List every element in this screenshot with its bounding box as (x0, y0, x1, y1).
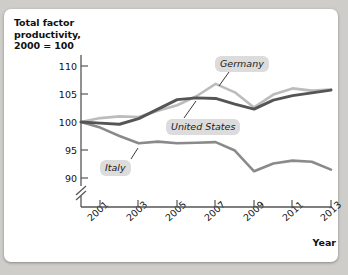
series-label-united-states: United States (166, 119, 240, 135)
series-line-germany (81, 84, 331, 122)
x-axis-ticks (100, 200, 331, 207)
chart-page: Total factor productivity, 2000 = 100 11… (0, 0, 348, 275)
series-label-germany: Germany (215, 56, 269, 72)
chart-plot-area (0, 0, 348, 275)
series-label-italy: Italy (100, 160, 131, 176)
